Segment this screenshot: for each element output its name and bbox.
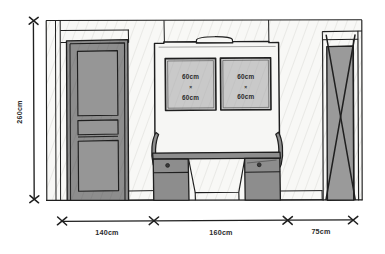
drawer-knob-right-icon[interactable] — [257, 163, 261, 167]
vertical-dimension-260: 260cm — [15, 17, 46, 203]
dimension-label-140: 140cm — [95, 228, 118, 237]
panel-left-times-icon: × — [189, 84, 192, 90]
panel-right-times-icon: × — [244, 84, 247, 90]
panel-left-width-label: 60cm — [182, 73, 199, 80]
mirror-panel-left[interactable]: 60cm × 60cm — [165, 58, 216, 110]
dimension-label-75: 75cm — [311, 227, 330, 236]
dimension-line-160 — [154, 220, 287, 221]
vertical-dimension-label: 260cm — [15, 100, 24, 123]
dimension-line-140 — [62, 221, 153, 222]
desk-pedestal-right[interactable] — [245, 158, 281, 200]
desk-pedestal-left[interactable] — [153, 159, 189, 201]
unit-top-crown — [196, 37, 232, 43]
drawer-knob-left-icon[interactable] — [166, 164, 170, 168]
panel-right-width-label: 60cm — [237, 73, 254, 80]
elevation-svg: 60cm × 60cm 60cm × 60cm — [0, 0, 385, 254]
horizontal-dimension-chain: 140cm 160cm — [57, 216, 357, 237]
door-panel-middle — [78, 120, 118, 137]
window-glass — [327, 46, 354, 200]
dimension-label-160: 160cm — [209, 228, 232, 237]
horizontal-dimension-140: 140cm — [57, 217, 153, 237]
door-panel-lower — [78, 140, 118, 191]
elevation-drawing-canvas: 60cm × 60cm 60cm × 60cm — [0, 0, 385, 254]
door-panel-upper — [77, 51, 118, 116]
panel-right-height-label: 60cm — [237, 93, 254, 100]
panel-left-height-label: 60cm — [182, 94, 199, 101]
horizontal-dimension-160: 160cm — [154, 220, 287, 236]
paneled-door[interactable] — [67, 40, 129, 201]
mirror-panel-right[interactable]: 60cm × 60cm — [220, 58, 271, 110]
vertical-dimension-line — [33, 23, 34, 197]
horizontal-dimension-75: 75cm — [288, 216, 358, 236]
